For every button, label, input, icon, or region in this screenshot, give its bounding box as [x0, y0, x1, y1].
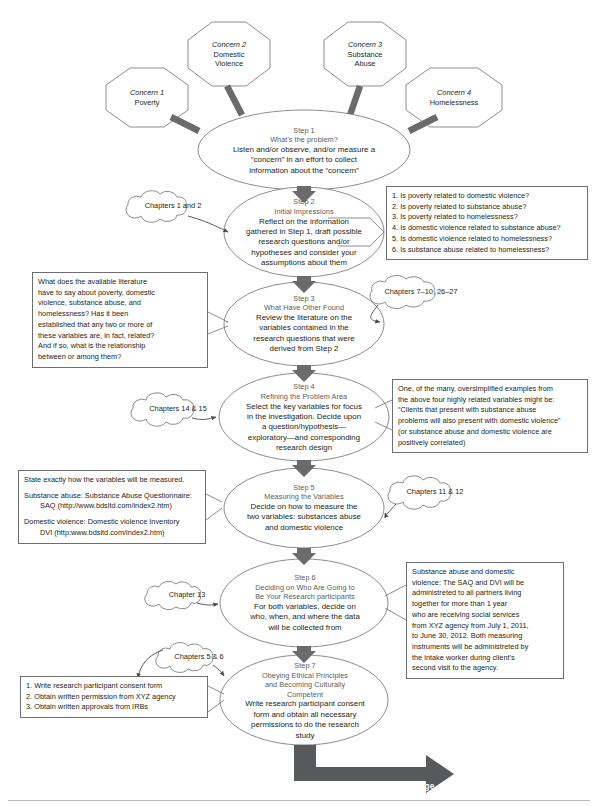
- step-7-title-1: Obeying Ethical Principles: [262, 671, 348, 681]
- step-2-body-5: assumptions about them: [261, 258, 347, 268]
- step-2-body-2: gathered in Step 1, draft possible: [246, 227, 362, 237]
- step-6-title-1: Deciding on Who Are Going to: [255, 583, 355, 593]
- step-7-title-3: Competent: [287, 690, 323, 700]
- sampling-line-7: to June 30, 2012. Both measuring: [412, 631, 558, 642]
- step-6-title-2: Be Your Research participants: [255, 592, 355, 602]
- step-2-label: Step 2 Initial Impressions Reflect on th…: [216, 198, 392, 268]
- note-sampling: Substance abuse and domestic violence: T…: [406, 562, 564, 679]
- concern-2-line1: Concern 2: [212, 40, 246, 50]
- literature-line-5: established that any two or more of: [38, 320, 202, 331]
- arrow-step5-step6: [292, 548, 316, 565]
- measurement-intro: State exactly how the variables will be …: [24, 475, 200, 486]
- literature-line-3: violence, substance abuse, and: [38, 298, 202, 309]
- step-1-number: Step 1: [293, 126, 314, 136]
- arrow-step3-step4: [292, 365, 316, 382]
- literature-line-6: these variables are, in fact, related?: [38, 331, 202, 342]
- step-7-body-4: study: [296, 731, 315, 741]
- concern-1-label: Concern 1 Poverty: [106, 80, 188, 115]
- step-7-title-2: and Becoming Culturally: [265, 680, 345, 690]
- research-question-5: 5. Is domestic violence related to homel…: [392, 234, 582, 245]
- note-ethics: 1. Write research participant consent fo…: [20, 676, 208, 718]
- link-concern2-step1: [227, 86, 242, 115]
- research-question-6: 6. Is substance abuse related to homeles…: [392, 245, 582, 256]
- step-2-body-3: research questions and/or: [258, 237, 349, 247]
- leader-cloud6-step6: [197, 603, 218, 605]
- hypothesis-line-3: “Clients that present with substance abu…: [398, 405, 582, 416]
- note-literature-question: What does the available literature have …: [32, 272, 208, 368]
- research-question-4: 4. Is domestic violence related to subst…: [392, 223, 582, 234]
- concern-3-line3: Abuse: [355, 59, 376, 69]
- ethics-line-2: 2. Obtain written permission from XYZ ag…: [26, 692, 202, 703]
- sampling-line-10: second visit to the agency.: [412, 663, 558, 674]
- cloud-step-6-label: Chapter 13: [145, 591, 229, 600]
- literature-line-7: And if so, what is the relationship: [38, 341, 202, 352]
- cloud-step-2-label: Chapters 1 and 2: [126, 202, 220, 211]
- sampling-line-2: violence: The SAQ and DVI will be: [412, 578, 558, 589]
- step-5-label: Step 5 Measuring the Variables Decide on…: [220, 482, 388, 534]
- step-7-label: Step 7 Obeying Ethical Principles and Be…: [216, 666, 394, 736]
- step-4-body-2: in the investigation. Decide upon: [247, 412, 361, 422]
- leader-cloud4-step4: [192, 417, 216, 420]
- concern-2-line2: Domestic: [214, 50, 245, 60]
- step-1-body-3: information about the “concern”: [249, 166, 359, 176]
- step-7-body-3: permissions to do the research: [251, 720, 359, 730]
- step-7-body-1: Write research participant consent: [245, 699, 365, 709]
- step-1-body-2: “concern” in an effort to collect: [251, 155, 357, 165]
- footer-divider: [8, 800, 590, 801]
- sampling-line-9: the intake worker during client's: [412, 653, 558, 664]
- step-6-label: Step 6 Deciding on Who Are Going to Be Y…: [216, 572, 394, 634]
- step-4-number: Step 4: [293, 382, 314, 392]
- literature-line-4: homelessness? Has it been: [38, 309, 202, 320]
- research-question-2: 2. Is poverty related to substance abuse…: [392, 202, 582, 213]
- sampling-line-6: from XYZ agency from July 1, 2011,: [412, 621, 558, 632]
- step-3-number: Step 3: [293, 294, 314, 304]
- concern-1-line2: Poverty: [134, 98, 159, 108]
- ethics-line-3: 3. Obtain written approvals from IRBs: [26, 702, 202, 713]
- arrow-step2-step3: [292, 276, 316, 293]
- step-1-title: What's the problem?: [270, 135, 338, 145]
- step-7-body-2: form and obtain all necessary: [253, 710, 356, 720]
- step-4-body-5: research design: [276, 443, 332, 453]
- sampling-line-3: administreted to all partners living: [412, 588, 558, 599]
- literature-line-1: What does the available literature: [38, 277, 202, 288]
- step-6-body-2: who, when, and where the data: [250, 612, 360, 622]
- cloud-step-5-label: Chapters 11 & 12: [388, 488, 482, 497]
- link-concern3-step1: [350, 86, 360, 115]
- hypothesis-line-5: (or substance abuse and domestic violenc…: [398, 427, 582, 438]
- cloud-step-7-label: Chapters 5 & 6: [156, 653, 242, 662]
- step-2-body-1: Reflect on the information: [259, 217, 349, 227]
- measurement-sa-line-1: Substance abuse: Substance Abuse Questio…: [24, 491, 200, 502]
- step-4-title: Refining the Problem Area: [261, 392, 347, 402]
- step-5-body-3: and domestic violence: [265, 523, 343, 533]
- hypothesis-line-6: positively correlated): [398, 438, 582, 449]
- continued-label: Continued on following page: [318, 782, 434, 791]
- note-hypothesis-example: One, of the many, oversimplified example…: [392, 379, 588, 453]
- concern-2-label: Concern 2 Domestic Violence: [188, 32, 270, 77]
- step-2-title: Initial Impressions: [274, 207, 333, 217]
- step-5-title: Measuring the Variables: [264, 492, 343, 502]
- step-7-number: Step 7: [294, 661, 315, 671]
- sampling-line-8: instruments will be administreted by: [412, 642, 558, 653]
- flowchart-figure: Concern 1 Poverty Concern 2 Domestic Vio…: [0, 0, 598, 806]
- research-question-3: 3. Is poverty related to homelessness?: [392, 212, 582, 223]
- note-measurement: State exactly how the variables will be …: [18, 470, 206, 544]
- arrow-step4-step5: [292, 460, 316, 477]
- step-3-title: What Have Other Found: [264, 303, 344, 313]
- concern-3-label: Concern 3 Substance Abuse: [324, 32, 406, 77]
- step-3-label: Step 3 What Have Other Found Review the …: [220, 293, 388, 355]
- literature-line-8: between or among them?: [38, 352, 202, 363]
- step-4-body-1: Select the key variables for focus: [246, 402, 362, 412]
- step-6-body-1: For both variables, decide on: [254, 602, 356, 612]
- cloud-step-3-label: Chapters 7–10, 26–27: [370, 288, 472, 297]
- step-6-body-3: will be collected from: [268, 623, 341, 633]
- concern-4-line1: Concern 4: [437, 88, 471, 98]
- research-question-1: 1. Is poverty related to domestic violen…: [392, 191, 582, 202]
- step-3-body-1: Review the literature on the: [256, 313, 352, 323]
- concern-3-line1: Concern 3: [348, 40, 382, 50]
- measurement-sa-line-2: SAQ (http://www.bdsltd.com/index2.htm): [24, 501, 200, 512]
- step-4-body-4: exploratory—and corresponding: [248, 433, 360, 443]
- concern-3-line2: Substance: [348, 50, 383, 60]
- step-4-body-3: a question/hypothesis—: [262, 422, 346, 432]
- step-3-body-4: derived from Step 2: [270, 344, 339, 354]
- measurement-dv-line-2: DVI (http:www.bdsltd.com/index2.htm): [24, 528, 200, 539]
